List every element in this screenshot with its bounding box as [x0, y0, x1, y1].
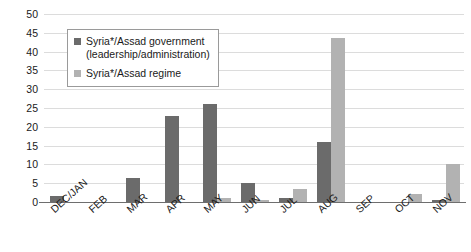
legend-label-0: Syria*/Assad government (leadership/admi… [86, 35, 210, 60]
legend-swatch-icon [74, 70, 81, 77]
y-tick-label: 35 [4, 65, 38, 75]
bar-group [390, 14, 428, 202]
y-tick-label: 25 [4, 103, 38, 113]
bar-group [237, 14, 275, 202]
y-tick-label: 20 [4, 122, 38, 132]
legend-label-0-line1: Syria*/Assad government [86, 35, 204, 47]
bar [203, 104, 217, 202]
legend-swatch-icon [74, 38, 81, 45]
y-tick-label: 10 [4, 159, 38, 169]
legend-label-1: Syria*/Assad regime [86, 67, 181, 80]
bar-group [428, 14, 466, 202]
y-tick-label: 0 [4, 197, 38, 207]
bar-group [313, 14, 351, 202]
bar [331, 38, 345, 202]
bar-chart: 50454035302520151050 DEC/JANFEBMARAPRMAY… [0, 0, 471, 252]
y-tick-label: 50 [4, 9, 38, 19]
y-axis: 50454035302520151050 [0, 14, 38, 202]
legend-label-0-line2: (leadership/administration) [86, 48, 210, 60]
y-tick-label: 45 [4, 28, 38, 38]
legend-item-1: Syria*/Assad regime [74, 67, 212, 80]
bar-group [275, 14, 313, 202]
y-tick-label: 15 [4, 141, 38, 151]
legend-label-1-line1: Syria*/Assad regime [86, 67, 181, 79]
bar-group [351, 14, 389, 202]
y-tick-label: 40 [4, 47, 38, 57]
y-tick-label: 5 [4, 178, 38, 188]
y-tick-label: 30 [4, 84, 38, 94]
bar [165, 116, 179, 202]
chart-legend: Syria*/Assad government (leadership/admi… [67, 29, 219, 87]
legend-item-0: Syria*/Assad government (leadership/admi… [74, 35, 212, 60]
